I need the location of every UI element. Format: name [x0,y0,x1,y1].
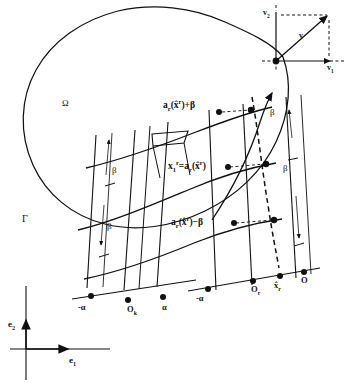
eq-upper-term: β [190,100,195,110]
tick-origin-k: Ok [127,305,137,316]
inset-label-v2: v2 [263,9,270,19]
tick-left-minus-alpha: -α [78,303,86,312]
beta-left-upper: β [112,166,117,175]
eq-mid-arg-hat: x̂ [195,162,200,172]
diagram-svg [0,0,350,392]
equation-lower: ar(x̂r)−β [171,216,203,230]
x-hat-r-sub: r [278,286,281,292]
dot-left-minus-alpha [88,293,94,299]
dot-upper-anchor [216,109,222,115]
eq-mid-lhs-sub: 1 [173,166,176,173]
boundary-label-gamma: Γ [22,214,28,224]
basis-vectors [10,286,110,380]
connector-upper [222,110,250,112]
tick-right-minus-alpha: -α [196,294,204,303]
dot-middle-fiber [263,161,269,167]
dot-middle-anchor [225,164,231,170]
v2-sub: 2 [267,13,270,19]
x-hat-r-letter: x̂ [274,281,278,290]
beta-right-lower: β [283,164,288,173]
origin-r-letter: O [251,284,258,294]
dot-lower-fiber [271,217,277,223]
dot-origin-k [125,297,131,303]
eq-mid-paren-close: ) [203,161,206,171]
dot-upper-fiber [248,107,254,113]
eq-low-arg-hat: x̂ [182,218,187,228]
e1-sub: 1 [73,361,76,367]
e2-sub: 2 [12,325,15,331]
dot-lower-anchor [231,220,237,226]
left-strip-group [72,122,196,299]
tick-right-alpha: O [301,276,308,285]
vector-inset [262,5,344,72]
origin-k-sub: k [134,310,137,316]
domain-boundary-curve [23,7,288,228]
origin-k-letter: O [127,304,134,314]
beta-right-upper: β [270,108,275,117]
dot-x-hat-r [277,273,283,279]
beta-left-lower: β [107,222,112,231]
inset-label-v: v [299,32,303,40]
figure-canvas: Ω Γ ar(x̂r)+β x1r=ar(x̂r) ar(x̂r)−β β β … [0,0,350,392]
fiber-dashed-curve [252,97,279,268]
dot-left-alpha [160,294,166,300]
domain-label-omega: Ω [62,99,69,108]
equation-upper: ar(x̂r)+β [163,99,195,113]
inset-label-v1: v1 [327,64,334,74]
basis-label-e2: e2 [8,320,15,331]
node-dots [88,107,307,303]
right-strip-group [188,95,320,291]
tick-x-hat-r: x̂r [274,281,281,292]
origin-r-sub: r [258,290,261,296]
eq-low-term: β [198,217,203,227]
basis-label-e1: e1 [69,356,76,367]
equation-middle: x1r=ar(x̂r) [168,160,206,174]
eq-upper-arg-hat: x̂ [174,101,179,111]
v1-sub: 1 [331,68,334,74]
dot-right-minus-alpha [205,286,211,292]
tick-left-alpha: α [162,303,167,312]
tick-origin-r: Or [251,285,260,296]
